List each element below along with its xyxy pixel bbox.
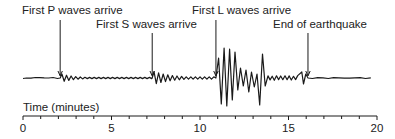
- time-axis-tick-labels: 05101520: [20, 122, 384, 134]
- tick-label: 15: [282, 122, 295, 134]
- tick-label: 10: [194, 122, 207, 134]
- arrow-p: [58, 20, 62, 76]
- label-end-of-earthquake: End of earthquake: [273, 18, 367, 30]
- tick-label: 0: [20, 122, 26, 134]
- time-axis-label: Time (minutes): [23, 101, 99, 113]
- label-first-l-waves: First L waves arrive: [192, 4, 291, 16]
- arrow-end: [306, 33, 310, 76]
- label-first-s-waves: First S waves arrive: [96, 18, 197, 30]
- tick-label: 20: [371, 122, 384, 134]
- seismogram-diagram: First P waves arrive First S waves arriv…: [0, 0, 395, 139]
- seismic-waveform: [23, 48, 371, 106]
- time-axis-ticks: [23, 116, 377, 120]
- label-first-p-waves: First P waves arrive: [22, 4, 123, 16]
- arrow-s: [150, 33, 154, 76]
- tick-label: 5: [108, 122, 114, 134]
